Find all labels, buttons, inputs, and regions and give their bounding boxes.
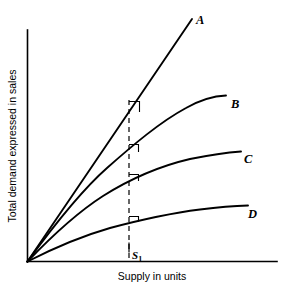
chart-canvas: A B C D S1 Supply in units Total demand … xyxy=(0,0,290,289)
x-axis-label: Supply in units xyxy=(118,270,186,282)
series-curve-b xyxy=(28,96,227,262)
series-label-a: A xyxy=(195,13,204,27)
slope-marker-group xyxy=(129,102,140,222)
series-curve-c xyxy=(28,152,242,262)
supply-reference-subscript: 1 xyxy=(138,255,142,264)
series-label-c: C xyxy=(244,152,253,166)
axes-group xyxy=(27,30,277,262)
series-group xyxy=(28,19,249,262)
y-axis-label: Total demand expressed in sales xyxy=(6,70,18,223)
series-label-b: B xyxy=(230,97,239,111)
chart-figure: A B C D S1 Supply in units Total demand … xyxy=(0,0,290,289)
series-label-d: D xyxy=(247,207,257,221)
series-line-a xyxy=(28,19,193,262)
